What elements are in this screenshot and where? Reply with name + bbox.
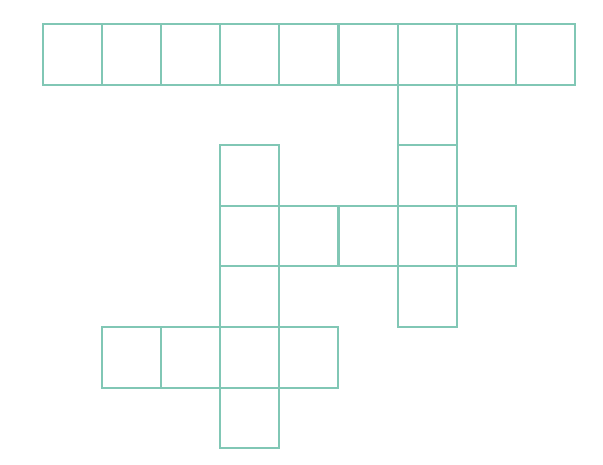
grid-cell-letter xyxy=(340,25,397,84)
grid-cell-r0-c4[interactable] xyxy=(278,23,339,86)
grid-cell-letter xyxy=(162,328,219,387)
grid-cell-letter xyxy=(280,207,337,266)
grid-cell-r3-c6[interactable] xyxy=(397,205,458,268)
grid-cell-r5-c4[interactable] xyxy=(278,326,339,389)
grid-cell-r2-c3[interactable] xyxy=(219,144,280,207)
grid-cell-letter xyxy=(162,25,219,84)
grid-cell-letter xyxy=(280,25,337,84)
grid-cell-r6-c3[interactable] xyxy=(219,387,280,450)
grid-cell-letter xyxy=(103,328,160,387)
grid-cell-letter xyxy=(221,207,278,266)
grid-cell-letter xyxy=(399,86,456,145)
grid-cell-letter xyxy=(340,207,397,266)
grid-cell-letter xyxy=(221,328,278,387)
grid-cell-letter xyxy=(44,25,101,84)
grid-cell-r0-c3[interactable] xyxy=(219,23,280,86)
grid-cell-r0-c0[interactable] xyxy=(42,23,103,86)
grid-cell-letter xyxy=(221,267,278,326)
grid-cell-letter xyxy=(399,207,456,266)
grid-cell-r5-c1[interactable] xyxy=(101,326,162,389)
grid-cell-letter xyxy=(517,25,574,84)
grid-cell-r4-c3[interactable] xyxy=(219,265,280,328)
grid-cell-r3-c4[interactable] xyxy=(278,205,339,268)
grid-cell-r0-c1[interactable] xyxy=(101,23,162,86)
grid-cell-letter xyxy=(280,328,337,387)
grid-cell-r5-c3[interactable] xyxy=(219,326,280,389)
crossword-grid xyxy=(0,0,603,465)
grid-cell-letter xyxy=(221,25,278,84)
grid-cell-r3-c3[interactable] xyxy=(219,205,280,268)
grid-cell-letter xyxy=(399,267,456,326)
grid-cell-letter xyxy=(458,25,515,84)
grid-cell-letter xyxy=(399,146,456,205)
grid-cell-r0-c7[interactable] xyxy=(456,23,517,86)
grid-cell-r0-c5[interactable] xyxy=(338,23,399,86)
grid-cell-letter xyxy=(399,25,456,84)
grid-cell-letter xyxy=(458,207,515,266)
grid-cell-letter xyxy=(103,25,160,84)
grid-cell-r3-c5[interactable] xyxy=(338,205,399,268)
grid-cell-letter xyxy=(221,389,278,448)
grid-cell-r1-c6[interactable] xyxy=(397,84,458,147)
grid-cell-r0-c6[interactable] xyxy=(397,23,458,86)
grid-cell-r4-c6[interactable] xyxy=(397,265,458,328)
crossword-puzzle xyxy=(0,0,603,465)
grid-cell-r0-c8[interactable] xyxy=(515,23,576,86)
grid-cell-r0-c2[interactable] xyxy=(160,23,221,86)
grid-cell-letter xyxy=(221,146,278,205)
grid-cell-r3-c7[interactable] xyxy=(456,205,517,268)
grid-cell-r5-c2[interactable] xyxy=(160,326,221,389)
grid-cell-r2-c6[interactable] xyxy=(397,144,458,207)
